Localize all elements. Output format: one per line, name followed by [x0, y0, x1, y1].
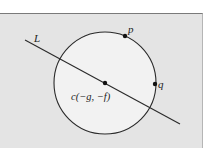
label-L: L	[33, 32, 40, 44]
center-point	[103, 81, 107, 85]
label-q: q	[158, 78, 164, 90]
point-p	[123, 34, 127, 38]
point-q	[153, 82, 157, 86]
circle-diagram: L p q c(−g, −f)	[0, 0, 207, 148]
label-center: c(−g, −f)	[71, 91, 111, 103]
label-p: p	[127, 23, 134, 35]
